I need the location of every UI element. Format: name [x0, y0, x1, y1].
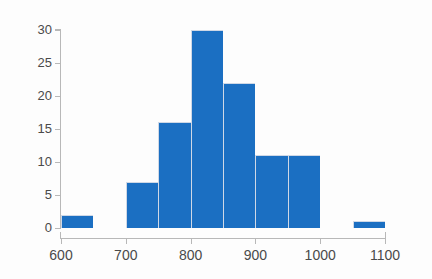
histogram-bar: [158, 122, 190, 228]
y-axis-tick-label: 25: [24, 56, 52, 69]
y-axis-tick: [55, 228, 60, 229]
x-axis-tick-label: 600: [31, 248, 91, 262]
x-axis-tick: [61, 238, 62, 244]
y-axis-tick: [55, 30, 60, 31]
histogram-bar: [126, 182, 158, 228]
histogram-bar: [191, 30, 223, 228]
x-axis-tick: [126, 238, 127, 244]
y-axis-tick: [55, 129, 60, 130]
histogram-bar: [353, 221, 385, 228]
y-axis-tick-label: 5: [24, 188, 52, 201]
histogram-bar: [223, 83, 255, 228]
y-axis-tick-label: 20: [24, 89, 52, 102]
x-axis-tick-label: 1000: [290, 248, 350, 262]
x-axis-tick-label: 1100: [355, 248, 415, 262]
y-axis-tick-label: 30: [24, 23, 52, 36]
y-axis-tick: [55, 162, 60, 163]
y-axis-tick: [55, 96, 60, 97]
x-axis-tick: [320, 238, 321, 244]
histogram-bar: [61, 215, 93, 228]
histogram-bar: [288, 155, 320, 228]
x-axis-tick: [191, 238, 192, 244]
y-axis-tick: [55, 195, 60, 196]
histogram-chart: 051015202530 60070080090010001100: [0, 0, 432, 279]
plot-area: [61, 30, 385, 228]
y-axis-tick-label: 0: [24, 221, 52, 234]
x-axis-tick-label: 900: [225, 248, 285, 262]
x-axis-tick: [255, 238, 256, 244]
y-axis-tick-label: 10: [24, 155, 52, 168]
x-axis-tick-label: 700: [96, 248, 156, 262]
bar-series: [61, 30, 385, 228]
histogram-bar: [255, 155, 287, 228]
y-axis-line: [60, 29, 61, 229]
y-axis-tick-labels: 051015202530: [14, 0, 52, 279]
x-axis-line: [60, 238, 386, 239]
y-axis-tick-label: 15: [24, 122, 52, 135]
x-axis-tick: [385, 238, 386, 244]
x-axis-tick-label: 800: [161, 248, 221, 262]
y-axis-tick: [55, 63, 60, 64]
